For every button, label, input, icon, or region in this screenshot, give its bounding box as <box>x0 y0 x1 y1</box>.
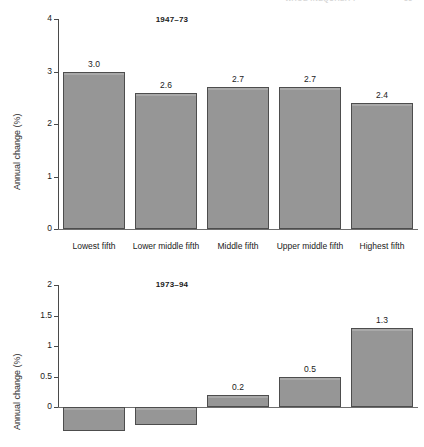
bar-highlight <box>280 88 340 90</box>
y-tick-top <box>54 19 58 20</box>
bar-value-label-top: 2.4 <box>362 90 402 100</box>
bar-bottom <box>279 377 341 408</box>
y-tick-label-top: 2 <box>28 118 52 128</box>
y-tick-label-bottom: 1.5 <box>24 310 52 320</box>
bar-value-label-bottom: 1.3 <box>362 315 402 325</box>
bar-highlight <box>136 408 196 410</box>
bar-value-label-top: 2.7 <box>290 74 330 84</box>
y-tick-label-bottom: 1 <box>24 340 52 350</box>
bar-highlight <box>64 73 124 75</box>
y-tick-bottom <box>54 407 58 408</box>
bar-top <box>135 93 197 230</box>
x-category-label: Highest fifth <box>337 241 424 251</box>
bar-bottom-negative <box>63 407 125 431</box>
y-tick-label-top: 0 <box>28 223 52 233</box>
bar-top <box>63 72 125 230</box>
y-axis-line-bottom <box>58 285 59 407</box>
y-tick-top <box>54 229 58 230</box>
x-axis-line-top <box>58 229 418 230</box>
y-tick-label-bottom: 0.5 <box>24 371 52 381</box>
y-tick-label-top: 3 <box>28 66 52 76</box>
y-axis-label-bottom: Annual change (%) <box>12 353 22 430</box>
y-tick-bottom <box>54 285 58 286</box>
y-tick-bottom <box>54 346 58 347</box>
bar-highlight <box>64 408 124 410</box>
bar-value-label-top: 2.7 <box>218 74 258 84</box>
bar-highlight <box>352 329 412 331</box>
y-tick-top <box>54 177 58 178</box>
chart-panel-1947-73: 1947–73 Annual change (%) 01234 3.02.62.… <box>0 0 424 258</box>
bar-bottom-negative <box>135 407 197 425</box>
bar-top <box>279 87 341 229</box>
bar-top <box>351 103 413 229</box>
y-axis-line-top <box>58 19 59 230</box>
bar-bottom <box>351 328 413 407</box>
bar-highlight <box>208 396 268 398</box>
bar-highlight <box>280 378 340 380</box>
y-tick-label-bottom: 2 <box>24 279 52 289</box>
bar-top <box>207 87 269 229</box>
bar-highlight <box>136 94 196 96</box>
y-axis-label-top: Annual change (%) <box>12 113 22 190</box>
bar-highlight <box>352 104 412 106</box>
y-tick-label-top: 4 <box>28 13 52 23</box>
bar-value-label-top: 3.0 <box>74 59 114 69</box>
bar-bottom <box>207 395 269 407</box>
bar-highlight <box>208 88 268 90</box>
bar-value-label-bottom: 0.2 <box>218 382 258 392</box>
y-tick-label-top: 1 <box>28 171 52 181</box>
y-tick-label-bottom: 0 <box>24 401 52 411</box>
figure-page: WAGE INEQUALITY 33 1947–73 Annual change… <box>0 0 424 447</box>
bar-value-label-top: 2.6 <box>146 80 186 90</box>
chart-panel-1973-94: 1973–94 Annual change (%) 00.511.52 0.20… <box>0 265 424 447</box>
bar-value-label-bottom: 0.5 <box>290 364 330 374</box>
y-tick-top <box>54 72 58 73</box>
y-tick-top <box>54 124 58 125</box>
y-tick-bottom <box>54 316 58 317</box>
y-tick-bottom <box>54 377 58 378</box>
